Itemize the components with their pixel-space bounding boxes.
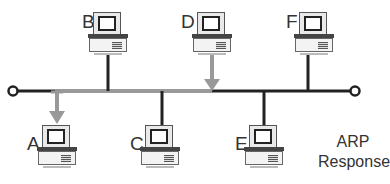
computer-b-icon xyxy=(88,12,128,56)
terminator-left-icon xyxy=(9,87,18,96)
computer-a-icon xyxy=(37,125,77,169)
arrow-down-icon xyxy=(49,111,65,124)
computer-f-icon xyxy=(294,12,334,56)
diagram-caption: ARP Response xyxy=(318,132,388,172)
computer-d-icon xyxy=(192,12,232,56)
computer-e-icon xyxy=(244,125,284,169)
caption-line-2: Response xyxy=(318,152,388,172)
terminator-right-icon xyxy=(351,87,360,96)
caption-line-1: ARP xyxy=(318,132,388,152)
computer-c-icon xyxy=(140,125,180,169)
